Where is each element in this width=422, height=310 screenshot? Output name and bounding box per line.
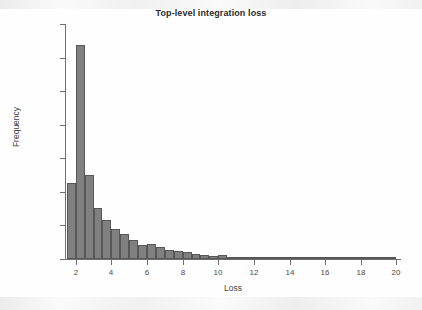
x-tick-label: 14 — [278, 268, 302, 277]
histogram-bar — [325, 257, 334, 259]
scan-artifact-bottom — [0, 297, 422, 310]
histogram-bar — [129, 240, 138, 259]
histogram-bar — [147, 244, 156, 259]
histogram-bar — [94, 208, 103, 259]
x-tick-label: 16 — [313, 268, 337, 277]
histogram-bar — [111, 229, 120, 259]
plot-area — [65, 24, 400, 259]
x-tick-mark — [325, 260, 326, 265]
histogram-bar — [379, 257, 388, 259]
histogram-bar — [290, 257, 299, 259]
histogram-bar — [218, 255, 227, 259]
x-tick-mark — [183, 260, 184, 265]
histogram-bar — [361, 257, 370, 259]
x-tick-label: 18 — [349, 268, 373, 277]
histogram-bar — [209, 256, 218, 259]
histogram-bar — [156, 247, 165, 259]
histogram-bar — [174, 251, 183, 259]
histogram-bar — [85, 175, 94, 259]
histogram-bar — [272, 257, 281, 259]
x-tick-label: 20 — [384, 268, 408, 277]
x-tick-label: 4 — [99, 268, 123, 277]
histogram-bar — [102, 220, 111, 259]
x-axis-label: Loss — [65, 283, 401, 293]
x-tick-label: 12 — [242, 268, 266, 277]
histogram-figure: Top-level integration loss 0500100015002… — [0, 0, 422, 310]
histogram-bar — [192, 254, 201, 259]
y-axis-label: Frequency — [11, 92, 21, 162]
histogram-bar — [370, 257, 379, 259]
histogram-bar — [352, 257, 361, 259]
chart-title: Top-level integration loss — [0, 8, 422, 18]
x-axis-line — [65, 259, 401, 260]
x-tick-mark — [218, 260, 219, 265]
x-tick-mark — [361, 260, 362, 265]
histogram-bar — [76, 45, 85, 259]
histogram-bar — [245, 257, 254, 259]
histogram-bar — [165, 250, 174, 259]
x-tick-label: 6 — [135, 268, 159, 277]
histogram-bar — [183, 252, 192, 259]
histogram-bar — [343, 257, 352, 259]
histogram-bar — [138, 245, 147, 259]
histogram-bar — [227, 257, 236, 259]
histogram-bar — [254, 257, 263, 259]
histogram-bar — [307, 257, 316, 259]
x-tick-label: 10 — [206, 268, 230, 277]
x-tick-label: 2 — [64, 268, 88, 277]
histogram-bar — [236, 257, 245, 259]
x-tick-mark — [147, 260, 148, 265]
histogram-bar — [298, 257, 307, 259]
histogram-bar — [263, 257, 272, 259]
x-tick-mark — [396, 260, 397, 265]
histogram-bar — [334, 257, 343, 259]
histogram-bar — [120, 234, 129, 259]
x-tick-mark — [290, 260, 291, 265]
x-tick-mark — [111, 260, 112, 265]
x-tick-mark — [254, 260, 255, 265]
histogram-bar — [316, 257, 325, 259]
histogram-bar — [281, 257, 290, 259]
x-tick-label: 8 — [171, 268, 195, 277]
histogram-bar — [67, 183, 76, 259]
x-tick-mark — [76, 260, 77, 265]
y-tick-mark — [60, 259, 65, 260]
histogram-bar — [200, 255, 209, 259]
histogram-bar — [388, 257, 397, 259]
